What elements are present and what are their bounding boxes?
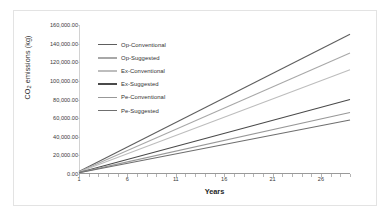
legend-line-swatch xyxy=(98,97,117,99)
legend-item: Ex-Suggested xyxy=(98,78,218,91)
series-line xyxy=(79,113,350,173)
y-axis-tick-mark xyxy=(77,81,80,82)
legend-item-label: Pe-Conventional xyxy=(121,94,165,100)
y-axis-tick-label: 100,000.00 xyxy=(32,78,78,84)
y-axis-title: CO2 emissions (kg) xyxy=(23,13,32,123)
legend-item-label: Pe-Suggested xyxy=(121,108,159,114)
x-axis-title: Years xyxy=(79,187,350,196)
y-axis-tick-label: 20,000.00 xyxy=(32,152,78,158)
x-axis-tick-label: 16 xyxy=(212,176,236,182)
y-axis-tick-mark xyxy=(77,155,80,156)
x-axis-tick-label: 11 xyxy=(164,176,188,182)
y-axis-title-suffix: emissions (kg) xyxy=(23,35,32,85)
legend-item: Op-Suggested xyxy=(98,51,218,64)
y-axis-title-prefix: CO xyxy=(23,89,32,100)
y-axis-title-subscript: 2 xyxy=(26,85,32,88)
legend-line-swatch xyxy=(98,44,117,46)
x-axis-tick-label: 6 xyxy=(115,176,139,182)
legend-line-swatch xyxy=(98,83,117,85)
x-axis-tick-mark xyxy=(350,174,351,177)
y-axis-tick-label: 160,000.00 xyxy=(32,22,78,28)
legend-item: Pe-Suggested xyxy=(98,104,218,117)
legend-item-label: Ex-Suggested xyxy=(121,81,159,87)
y-axis-tick-mark xyxy=(77,137,80,138)
chart-figure: CO2 emissions (kg) 0.0020,000.0040,000.0… xyxy=(13,10,377,206)
legend-item: Op-Conventional xyxy=(98,38,218,51)
legend-item-label: Op-Conventional xyxy=(121,42,166,48)
x-axis-tick-label: 1 xyxy=(67,176,91,182)
y-axis-tick-label: 60,000.00 xyxy=(32,115,78,121)
x-axis-tick-label: 21 xyxy=(261,176,285,182)
legend-item: Ex-Conventional xyxy=(98,64,218,77)
y-axis-tick-mark xyxy=(77,25,80,26)
y-axis-tick-label: 40,000.00 xyxy=(32,134,78,140)
legend-line-swatch xyxy=(98,57,117,59)
y-axis-tick-mark xyxy=(77,118,80,119)
x-axis-tick-label: 26 xyxy=(309,176,333,182)
y-axis-tick-mark xyxy=(77,62,80,63)
legend-item-label: Ex-Conventional xyxy=(121,68,165,74)
y-axis-tick-mark xyxy=(77,44,80,45)
legend-item: Pe-Conventional xyxy=(98,91,218,104)
legend-item-label: Op-Suggested xyxy=(121,55,160,61)
chart-legend: Op-ConventionalOp-SuggestedEx-Convention… xyxy=(98,38,218,117)
y-axis-tick-label: 120,000.00 xyxy=(32,59,78,65)
y-axis-tick-mark xyxy=(77,100,80,101)
legend-line-swatch xyxy=(98,110,117,112)
y-axis-tick-label: 80,000.00 xyxy=(32,97,78,103)
series-line xyxy=(79,120,350,173)
legend-line-swatch xyxy=(98,70,117,72)
y-axis-tick-label: 140,000.00 xyxy=(32,41,78,47)
